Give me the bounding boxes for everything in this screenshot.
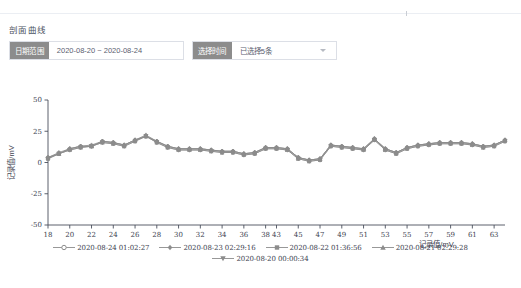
svg-text:51: 51	[359, 231, 368, 239]
time-select-value[interactable]: 已选择5条	[232, 42, 310, 59]
legend-label: 2020-08-20 00:00:34	[236, 255, 308, 263]
svg-text:61: 61	[468, 231, 477, 239]
svg-text:43: 43	[272, 231, 281, 239]
top-divider	[0, 13, 521, 14]
legend-label: 2020-08-24 01:02:27	[77, 244, 149, 252]
legend-marker-triangle-down	[212, 254, 234, 263]
svg-text:57: 57	[424, 231, 433, 239]
legend-row: 2020-08-24 01:02:272020-08-23 02:29:1620…	[53, 243, 468, 252]
legend-label: 2020-08-23 02:29:16	[183, 244, 255, 252]
svg-text:26: 26	[131, 231, 140, 239]
svg-text:59: 59	[446, 231, 455, 239]
svg-text:22: 22	[87, 231, 96, 239]
legend-item[interactable]: 2020-08-22 01:36:56	[266, 243, 362, 252]
chart-canvas: 50250-25-50记录值/mV18202224262830323436384…	[0, 80, 521, 248]
legend-row: 2020-08-20 00:00:34	[212, 254, 308, 263]
date-range-label: 日期范围	[10, 42, 49, 59]
svg-text:36: 36	[239, 231, 248, 239]
legend-marker-square	[266, 243, 288, 252]
page-title: 剖面曲线	[9, 23, 47, 35]
top-marker	[406, 11, 407, 16]
date-range-input[interactable]: 2020-08-20 ~ 2020-08-24	[49, 42, 183, 59]
svg-text:-50: -50	[31, 221, 42, 229]
legend-item[interactable]: 2020-08-24 01:02:27	[53, 243, 149, 252]
svg-text:0: 0	[38, 159, 42, 167]
chevron-down-icon[interactable]	[310, 42, 336, 59]
svg-text:47: 47	[316, 231, 325, 239]
profile-curve-page: 剖面曲线 日期范围 2020-08-20 ~ 2020-08-24 选择时间 已…	[0, 0, 521, 288]
svg-text:记录值/mV: 记录值/mV	[6, 145, 16, 179]
time-select-label: 选择时间	[193, 42, 232, 59]
legend-item[interactable]: 2020-08-20 00:00:34	[212, 254, 308, 263]
svg-text:53: 53	[381, 231, 390, 239]
legend-marker-circle	[53, 243, 75, 252]
svg-text:38: 38	[261, 231, 270, 239]
legend-item[interactable]: 2020-08-21 02:29:28	[372, 243, 468, 252]
svg-text:-25: -25	[31, 190, 42, 198]
chart-legend: 2020-08-24 01:02:272020-08-23 02:29:1620…	[0, 243, 521, 263]
svg-text:50: 50	[33, 96, 42, 104]
legend-item[interactable]: 2020-08-23 02:29:16	[159, 243, 255, 252]
svg-text:25: 25	[33, 128, 42, 136]
date-range-group[interactable]: 日期范围 2020-08-20 ~ 2020-08-24	[9, 41, 184, 60]
svg-text:55: 55	[403, 231, 412, 239]
filter-bar: 日期范围 2020-08-20 ~ 2020-08-24 选择时间 已选择5条	[9, 41, 337, 60]
svg-text:30: 30	[174, 231, 183, 239]
time-select-group[interactable]: 选择时间 已选择5条	[192, 41, 337, 60]
legend-label: 2020-08-21 02:29:28	[396, 244, 468, 252]
legend-marker-diamond	[159, 243, 181, 252]
svg-text:34: 34	[218, 231, 227, 239]
svg-text:24: 24	[109, 231, 118, 239]
svg-text:49: 49	[337, 231, 346, 239]
svg-text:20: 20	[65, 231, 74, 239]
svg-text:45: 45	[294, 231, 303, 239]
svg-text:63: 63	[490, 231, 499, 239]
legend-label: 2020-08-22 01:36:56	[290, 244, 362, 252]
svg-text:28: 28	[152, 231, 161, 239]
svg-text:18: 18	[44, 231, 53, 239]
svg-text:32: 32	[196, 231, 205, 239]
legend-marker-triangle-up	[372, 243, 394, 252]
